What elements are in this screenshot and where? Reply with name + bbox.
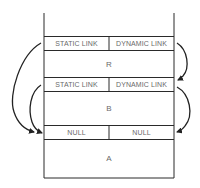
frame-a-dynamic-link: NULL (132, 129, 150, 136)
frame-b-static-link: STATIC LINK (55, 81, 98, 88)
frame-r-links: STATIC LINK DYNAMIC LINK (44, 37, 174, 51)
frame-a-links: NULL NULL (44, 126, 174, 140)
frame-r-dynamic-link: DYNAMIC LINK (116, 40, 167, 47)
frame-b-label: B (106, 104, 111, 113)
frame-a-label: A (106, 154, 112, 163)
frame-b-dynamic-link: DYNAMIC LINK (116, 81, 167, 88)
frame-r-label: R (106, 60, 112, 69)
arrow-r-dynamic-to-b (177, 43, 187, 80)
frame-b-links: STATIC LINK DYNAMIC LINK (44, 78, 174, 92)
frame-r-static-link: STATIC LINK (55, 40, 98, 47)
frame-a-static-link: NULL (67, 129, 85, 136)
arrow-r-static-to-a (12, 43, 41, 132)
arrow-b-static-to-a (30, 85, 42, 133)
activation-record-diagram: STATIC LINK DYNAMIC LINK R STATIC LINK D… (0, 0, 200, 188)
arrow-b-dynamic-to-a (177, 87, 190, 132)
